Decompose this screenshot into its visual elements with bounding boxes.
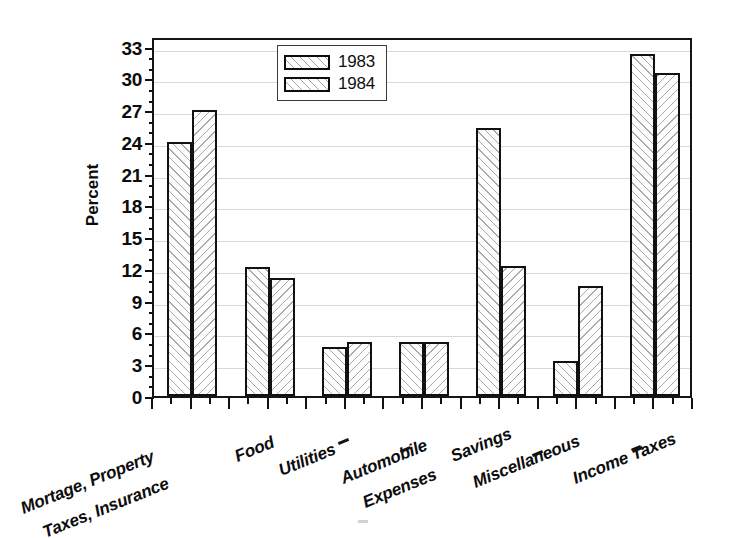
- x-tick-mark: [402, 398, 404, 404]
- x-tick-mark: [382, 398, 384, 409]
- y-tick-label: 0: [108, 387, 142, 409]
- y-axis-title: Percent: [83, 164, 103, 226]
- x-tick-mark: [537, 398, 539, 409]
- chart-canvas: Percent 03691215182124273033 Mortage, Pr…: [0, 0, 730, 538]
- x-tick-mark: [151, 398, 153, 409]
- gridline: [154, 209, 690, 210]
- bar-1983-1: [245, 267, 270, 396]
- x-tick-mark: [633, 398, 635, 404]
- x-label-leader-dash: [338, 438, 349, 445]
- y-tick-label: 24: [108, 133, 142, 155]
- x-tick-mark: [672, 398, 674, 404]
- y-tick-label: 30: [108, 69, 142, 91]
- gridline: [154, 241, 690, 242]
- gridline: [154, 273, 690, 274]
- x-tick-mark: [305, 398, 307, 409]
- x-tick-mark: [421, 398, 423, 409]
- legend-item: 1983: [284, 51, 380, 73]
- x-tick-mark: [595, 398, 597, 404]
- gridline: [154, 146, 690, 147]
- bar-1984-3: [424, 342, 449, 396]
- x-tick-mark: [325, 398, 327, 404]
- gridline: [154, 305, 690, 306]
- x-tick-mark: [190, 398, 192, 409]
- x-tick-mark: [479, 398, 481, 404]
- y-tick-label: 33: [108, 38, 142, 60]
- y-tick-label: 6: [108, 323, 142, 345]
- legend-label-1984: 1984: [338, 74, 375, 94]
- bar-1983-3: [399, 342, 424, 396]
- x-tick-mark: [286, 398, 288, 404]
- x-category-label-6: Income Taxes: [570, 429, 679, 489]
- gridline: [154, 51, 690, 52]
- chart-title: [150, 0, 580, 4]
- x-tick-mark: [575, 398, 577, 409]
- x-tick-mark: [247, 398, 249, 404]
- y-tick-label: 21: [108, 165, 142, 187]
- x-tick-mark: [652, 398, 654, 409]
- bar-1984-4: [501, 266, 526, 396]
- y-tick-label: 3: [108, 355, 142, 377]
- x-tick-mark: [209, 398, 211, 404]
- bar-1984-6: [655, 73, 680, 396]
- bar-1984-0: [192, 110, 217, 396]
- x-tick-mark: [498, 398, 500, 409]
- x-tick-mark: [556, 398, 558, 404]
- x-tick-mark: [517, 398, 519, 404]
- y-tick-label: 9: [108, 292, 142, 314]
- bar-1983-6: [630, 54, 655, 396]
- gridline: [154, 82, 690, 83]
- bar-1984-5: [578, 286, 603, 396]
- bar-1984-1: [270, 278, 295, 396]
- plot-area: [152, 38, 692, 398]
- legend-label-1983: 1983: [338, 52, 375, 72]
- bar-1983-2: [322, 347, 347, 396]
- y-tick-label: 12: [108, 260, 142, 282]
- x-tick-mark: [170, 398, 172, 404]
- legend-swatch-1984-icon: [284, 77, 330, 92]
- bar-1983-4: [476, 128, 501, 396]
- x-tick-mark: [267, 398, 269, 409]
- x-category-label-1: Food: [232, 433, 277, 467]
- y-tick-label: 18: [108, 196, 142, 218]
- x-tick-mark: [228, 398, 230, 409]
- x-tick-mark: [344, 398, 346, 409]
- legend-swatch-1983-icon: [284, 55, 330, 70]
- gridline: [154, 178, 690, 179]
- x-tick-mark: [363, 398, 365, 404]
- y-tick-label: 27: [108, 101, 142, 123]
- x-tick-mark: [460, 398, 462, 409]
- x-tick-mark: [691, 398, 693, 409]
- bar-1983-5: [553, 361, 578, 396]
- legend-item: 1984: [284, 73, 380, 95]
- page-artifact: [358, 520, 368, 523]
- gridline: [154, 336, 690, 337]
- legend: 1983 1984: [277, 45, 387, 101]
- bar-1984-2: [347, 342, 372, 396]
- x-tick-mark: [440, 398, 442, 404]
- x-category-label-2: Utilities: [276, 440, 339, 481]
- x-tick-mark: [614, 398, 616, 409]
- gridline: [154, 114, 690, 115]
- y-tick-label: 15: [108, 228, 142, 250]
- bar-1983-0: [167, 142, 192, 396]
